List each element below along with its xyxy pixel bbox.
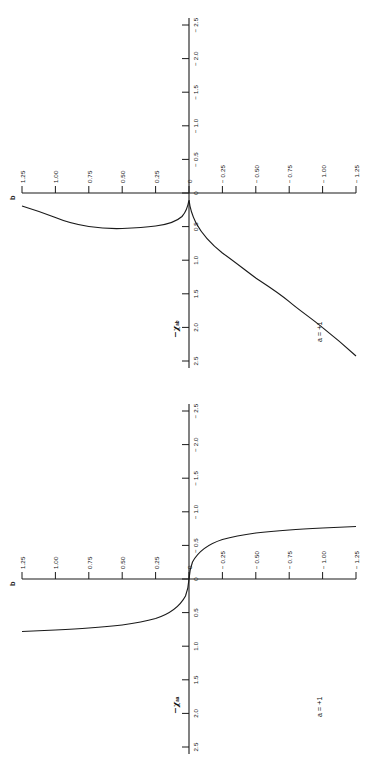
value-tick-label: 1.0 xyxy=(192,642,199,651)
b-tick-label: 1.25 xyxy=(19,557,26,569)
b-axis-ticks-1 xyxy=(22,186,356,193)
value-axis-title: −χaa xyxy=(170,697,180,714)
value-tick-label: 2.5 xyxy=(192,743,199,752)
value-tick-label: − 2.5 xyxy=(192,404,199,418)
value-axis-ticks-2 xyxy=(182,411,189,747)
value-axis-title-main: −χ xyxy=(170,326,180,338)
value-axis-title-subscript: ab xyxy=(175,320,180,325)
b-tick-label: 0.75 xyxy=(85,171,92,183)
b-tick-label: 1.25 xyxy=(19,171,26,183)
value-tick-label: − 0.5 xyxy=(192,538,199,552)
rotated-plot-canvas-2: 2.5 2.0 1.5 1.0 0.5 0 − 0.5 − 1.0 − 1.5 … xyxy=(0,386,378,772)
b-tick-label: 0.50 xyxy=(119,171,126,183)
value-tick-label: − 2.0 xyxy=(192,51,199,65)
value-tick-label: − 2.5 xyxy=(192,18,199,32)
b-tick-label: − 0.50 xyxy=(252,551,259,569)
value-tick-label: − 1.0 xyxy=(192,119,199,133)
value-axis-title-subscript: aa xyxy=(175,697,180,702)
value-tick-label: 0 xyxy=(192,577,199,581)
value-tick-label: 1.5 xyxy=(192,675,199,684)
value-tick-label: − 1.0 xyxy=(192,505,199,519)
value-tick-label: 0 xyxy=(192,191,199,195)
value-axis-ticks-1 xyxy=(182,25,189,361)
value-tick-label: − 2.0 xyxy=(192,437,199,451)
b-tick-label: − 0.25 xyxy=(219,551,226,569)
b-axis-title: b xyxy=(8,195,17,200)
b-tick-label: − 0.50 xyxy=(252,165,259,183)
b-tick-label: 0.75 xyxy=(85,557,92,569)
parameter-annotation: a = +1 xyxy=(316,322,323,342)
b-tick-label: − 1.25 xyxy=(353,165,360,183)
value-tick-label: 1.0 xyxy=(192,256,199,265)
b-axis-title: b xyxy=(8,581,17,586)
b-tick-label: 1.00 xyxy=(52,171,59,183)
b-tick-label: 0.25 xyxy=(152,171,159,183)
value-tick-label: − 1.5 xyxy=(192,85,199,99)
rotated-plot-canvas-1: 2.5 2.0 1.5 1.0 0.5 0 − 0.5 − 1.0 − 1.5 … xyxy=(0,0,378,386)
b-tick-label: 0 xyxy=(186,565,193,569)
b-tick-label: 0 xyxy=(186,179,193,183)
b-tick-label: − 0.75 xyxy=(286,551,293,569)
b-tick-label: 0.50 xyxy=(119,557,126,569)
b-tick-label: − 0.25 xyxy=(219,165,226,183)
b-tick-label: − 0.75 xyxy=(286,165,293,183)
b-tick-label: − 1.00 xyxy=(319,551,326,569)
figure-chi-aa: 2.5 2.0 1.5 1.0 0.5 0 − 0.5 − 1.0 − 1.5 … xyxy=(0,386,378,772)
value-tick-label: 1.5 xyxy=(192,289,199,298)
value-tick-label: 2.0 xyxy=(192,323,199,332)
parameter-annotation: a = +1 xyxy=(316,697,323,717)
b-tick-label: 1.00 xyxy=(52,557,59,569)
value-tick-label: 0.5 xyxy=(192,608,199,617)
value-tick-label: − 0.5 xyxy=(192,152,199,166)
figure-page: 2.5 2.0 1.5 1.0 0.5 0 − 0.5 − 1.0 − 1.5 … xyxy=(0,0,378,772)
b-tick-label: 0.25 xyxy=(152,557,159,569)
b-tick-label: − 1.25 xyxy=(353,551,360,569)
value-tick-label: 2.0 xyxy=(192,709,199,718)
b-tick-label: − 1.00 xyxy=(319,165,326,183)
value-tick-label: 2.5 xyxy=(192,357,199,366)
value-axis-title: −χab xyxy=(170,320,180,338)
figure-chi-ab: 2.5 2.0 1.5 1.0 0.5 0 − 0.5 − 1.0 − 1.5 … xyxy=(0,0,378,386)
value-axis-title-main: −χ xyxy=(170,702,180,714)
value-tick-label: − 1.5 xyxy=(192,471,199,485)
value-tick-label: 0.5 xyxy=(192,222,199,231)
